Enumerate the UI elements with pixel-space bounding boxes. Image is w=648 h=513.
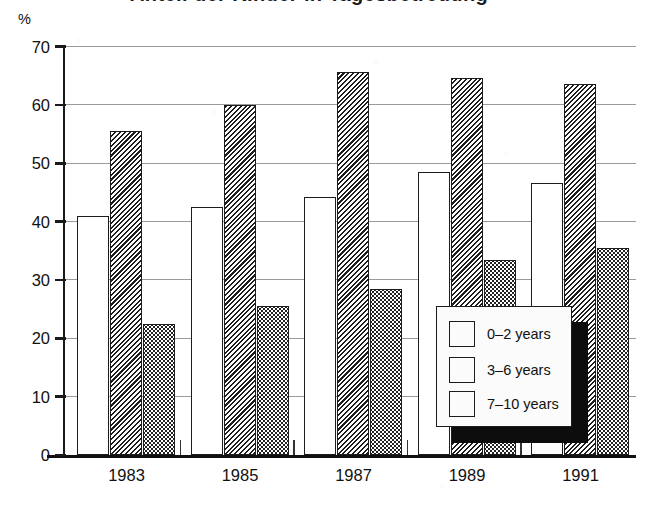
legend-swatch-dotted: [449, 391, 475, 417]
bar-1985-hatched: [224, 105, 256, 455]
x-axis-separator: [180, 440, 182, 455]
legend-item-label: 3–6 years: [487, 362, 551, 378]
x-axis-line: [47, 455, 636, 458]
bar-1987-white: [304, 197, 336, 455]
y-axis-tick-label-30: 30: [32, 272, 50, 289]
x-axis-tick-label-1991: 1991: [546, 466, 616, 485]
bar-1983-white: [77, 216, 109, 455]
x-axis-tick-label-1983: 1983: [92, 466, 162, 485]
bar-1991-dotted: [597, 248, 629, 455]
y-axis-tick-label-10: 10: [32, 389, 50, 406]
y-axis-tick-0: [55, 454, 66, 457]
y-axis-tick-60: [55, 104, 66, 107]
y-axis-tick-70: [55, 45, 66, 48]
x-axis-separator: [293, 440, 295, 455]
legend-item-label: 7–10 years: [487, 396, 559, 412]
bar-1983-dotted: [143, 324, 175, 455]
legend-swatch-white: [449, 321, 475, 347]
y-axis-tick-label-60: 60: [32, 97, 50, 114]
bar-1987-dotted: [370, 289, 402, 455]
x-axis-tick-label-1987: 1987: [319, 466, 389, 485]
chart-title-cropped: Anteil der Kinder in Tagesbetreuung: [0, 0, 648, 9]
x-axis-tick-label-1985: 1985: [205, 466, 275, 485]
bar-1985-dotted: [257, 306, 289, 455]
chart-legend: 0–2 years 3–6 years 7–10 years: [436, 306, 572, 427]
legend-swatch-hatched: [449, 357, 475, 383]
y-axis-tick-label-40: 40: [32, 214, 50, 231]
y-axis-tick-label-20: 20: [32, 330, 50, 347]
bar-1983-hatched: [110, 131, 142, 455]
bar-1987-hatched: [337, 72, 369, 455]
page-title: Anteil der Kinder in Tagesbetreuung: [130, 0, 488, 6]
x-axis-separator: [407, 440, 409, 455]
y-axis-tick-40: [55, 220, 66, 223]
legend-item: 0–2 years: [449, 319, 551, 349]
legend-item: 7–10 years: [449, 389, 559, 419]
y-axis-tick-20: [55, 337, 66, 340]
bar-1985-white: [191, 207, 223, 455]
legend-item-label: 0–2 years: [487, 326, 551, 342]
y-axis-tick-30: [55, 279, 66, 282]
y-axis-tick-label-70: 70: [32, 39, 50, 56]
y-axis-unit-label: %: [18, 11, 31, 27]
y-axis-tick-label-0: 0: [41, 447, 50, 464]
y-axis-tick-10: [55, 395, 66, 398]
gridline-70: [66, 46, 636, 47]
legend-item: 3–6 years: [449, 355, 551, 385]
y-axis-tick-50: [55, 162, 66, 165]
y-axis-tick-label-50: 50: [32, 155, 50, 172]
x-axis-tick-label-1989: 1989: [432, 466, 502, 485]
